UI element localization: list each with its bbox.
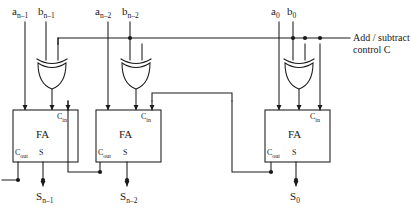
- control-label-line1: Add / subtract: [353, 32, 410, 44]
- control-label: Add / subtract control C: [353, 32, 410, 55]
- pin-cin-0: Cin: [310, 113, 320, 123]
- output-label-s-n-2: Sn–2: [120, 191, 137, 205]
- fa-label-0: FA: [288, 129, 301, 140]
- pin-s-n-1: S: [39, 149, 43, 157]
- output-label-s-n-1: Sn–1: [36, 191, 53, 205]
- output-label-s-0: S0: [290, 191, 300, 205]
- fa-label-n-1: FA: [36, 129, 49, 140]
- input-label-a-n-1: an–1: [12, 6, 28, 20]
- pin-cin-n-2: Cin: [141, 113, 151, 123]
- control-label-line2: control C: [353, 44, 410, 56]
- circuit-svg: [0, 0, 411, 213]
- input-label-b-n-1: bn–1: [38, 6, 55, 20]
- input-label-a-0: a0: [271, 6, 280, 20]
- pin-cout-n-1: Cout: [15, 149, 28, 159]
- carry-bus-gap: [152, 93, 232, 101]
- wire-cout-n-1: [2, 162, 18, 180]
- pin-cout-0: Cout: [267, 149, 280, 159]
- circuit-diagram: an–1 bn–1 an–2 bn–2 a0 b0 FA FA FA Cin C…: [0, 0, 411, 213]
- pin-cout-n-2: Cout: [98, 149, 111, 159]
- pin-s-n-2: S: [123, 149, 127, 157]
- pin-s-0: S: [292, 149, 296, 157]
- input-label-a-n-2: an–2: [95, 6, 111, 20]
- xor-gate-0: [284, 59, 314, 89]
- fa-label-n-2: FA: [119, 129, 132, 140]
- input-label-b-0: b0: [287, 6, 296, 20]
- xor-gate-n-2: [121, 59, 151, 89]
- xor-gate-n-1: [37, 59, 67, 89]
- input-label-b-n-2: bn–2: [122, 6, 139, 20]
- pin-cin-n-1: Cin: [57, 113, 67, 123]
